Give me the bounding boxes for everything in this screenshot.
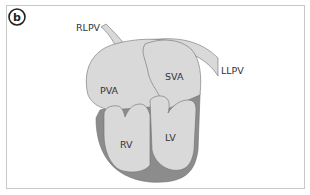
heart-diagram: b RLPV LLPV PVA SVA RV LV: [0, 0, 310, 195]
panel-label-badge: b: [9, 9, 25, 25]
label-llpv: LLPV: [221, 65, 244, 76]
label-lv: LV: [165, 132, 176, 143]
label-rv: RV: [120, 139, 133, 150]
panel-label: b: [13, 11, 21, 24]
label-pva: PVA: [100, 85, 119, 96]
label-sva: SVA: [165, 71, 184, 82]
label-rlpv: RLPV: [76, 22, 101, 33]
